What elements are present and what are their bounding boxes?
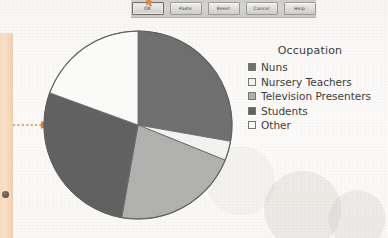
chart-legend: Occupation Nuns Nursery Teachers Televis… [248,44,386,134]
pie-slice-group [44,31,232,219]
legend-label-television-presenters: Television Presenters [261,90,371,102]
dialog-button-bar: OK Paste Reset Cancel Help [131,0,316,18]
legend-swatch-nursery-teachers [248,78,256,86]
legend-item-nursery-teachers[interactable]: Nursery Teachers [248,76,386,88]
legend-title: Occupation [248,44,386,57]
margin-highlight-band [0,33,13,238]
ok-button[interactable]: OK [132,2,164,15]
legend-swatch-television-presenters [248,92,256,100]
legend-item-television-presenters[interactable]: Television Presenters [248,90,386,102]
pie-chart [40,27,240,227]
help-button[interactable]: Help [284,2,316,15]
legend-swatch-students [248,107,256,115]
reset-button[interactable]: Reset [208,2,240,15]
paste-button[interactable]: Paste [170,2,202,15]
legend-label-nursery-teachers: Nursery Teachers [261,76,352,88]
legend-swatch-other [248,121,256,129]
legend-label-students: Students [261,105,308,117]
pie-slice-nuns[interactable] [138,31,232,141]
margin-ink-mark [2,191,9,198]
pie-chart-svg [40,27,240,227]
legend-item-nuns[interactable]: Nuns [248,61,386,73]
legend-label-nuns: Nuns [261,61,288,73]
legend-item-students[interactable]: Students [248,105,386,117]
cancel-button[interactable]: Cancel [246,2,278,15]
legend-swatch-nuns [248,63,256,71]
legend-label-other: Other [261,119,291,131]
legend-item-other[interactable]: Other [248,119,386,131]
